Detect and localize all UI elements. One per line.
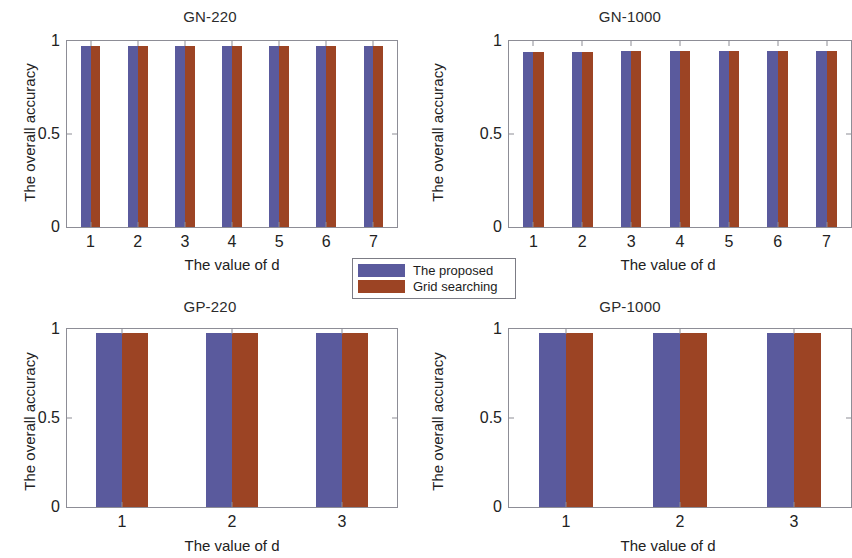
y-tick-mark: [846, 418, 851, 419]
x-tick-label: 1: [118, 513, 127, 531]
bar-group: [572, 41, 593, 227]
x-tick-mark: [826, 41, 827, 46]
bar-the-proposed-1: [96, 333, 122, 507]
panel-gn-220: GN-220 The overall accuracy 123456700.51…: [0, 0, 420, 285]
y-tick-label: 0.5: [38, 125, 60, 143]
bar-the-proposed-6: [767, 51, 777, 227]
x-tick-mark: [279, 41, 280, 46]
y-tick-label: 0: [493, 218, 502, 236]
x-axis-label: The value of d: [66, 256, 398, 273]
bar-grid-searching-4: [680, 51, 690, 227]
x-tick-mark: [777, 222, 778, 227]
bar-grid-searching-7: [827, 51, 837, 227]
x-tick-label: 5: [275, 233, 284, 251]
bar-grid-searching-1: [566, 333, 593, 507]
x-tick-label: 2: [228, 513, 237, 531]
x-tick-mark: [826, 222, 827, 227]
bar-group: [539, 329, 593, 507]
bar-group: [670, 41, 691, 227]
x-tick-label: 7: [369, 233, 378, 251]
bars-layer: [509, 41, 851, 227]
x-tick-mark: [582, 41, 583, 46]
bar-group: [316, 329, 368, 507]
bar-grid-searching-1: [533, 52, 543, 227]
x-tick-mark: [90, 41, 91, 46]
x-tick-label: 4: [228, 233, 237, 251]
bar-grid-searching-3: [631, 51, 641, 227]
x-tick-mark: [566, 502, 567, 507]
chart-legend: The proposed Grid searching: [352, 258, 516, 299]
bars-layer: [509, 329, 851, 507]
x-tick-label: 7: [822, 233, 831, 251]
bar-grid-searching-3: [794, 333, 821, 507]
bar-the-proposed-6: [316, 46, 326, 227]
y-tick-label: 1: [493, 32, 502, 50]
bar-grid-searching-7: [373, 46, 383, 227]
legend-swatch-grid-searching: [358, 280, 405, 293]
panel-title: GN-220: [0, 8, 420, 25]
x-tick-mark: [184, 222, 185, 227]
y-tick-label: 0: [51, 498, 60, 516]
x-tick-mark: [794, 329, 795, 334]
bar-grid-searching-1: [91, 46, 101, 227]
y-tick-label: 0.5: [38, 409, 60, 427]
x-tick-mark: [728, 41, 729, 46]
x-tick-mark: [680, 41, 681, 46]
y-tick-mark: [846, 134, 851, 135]
bar-group: [96, 329, 148, 507]
bar-grid-searching-6: [326, 46, 336, 227]
bar-group: [653, 329, 707, 507]
y-tick-label: 0.5: [480, 409, 502, 427]
x-tick-mark: [137, 41, 138, 46]
bar-grid-searching-2: [582, 52, 592, 227]
y-tick-mark: [67, 418, 72, 419]
x-axis-label: The value of d: [508, 537, 828, 554]
bar-the-proposed-4: [222, 46, 232, 227]
bar-group: [128, 41, 148, 227]
x-tick-label: 5: [724, 233, 733, 251]
bar-group: [269, 41, 289, 227]
x-tick-mark: [631, 222, 632, 227]
x-tick-mark: [279, 222, 280, 227]
bar-the-proposed-2: [572, 52, 582, 227]
bar-group: [175, 41, 195, 227]
bar-grid-searching-5: [279, 46, 289, 227]
panel-title: GP-220: [0, 298, 420, 315]
x-tick-mark: [373, 41, 374, 46]
bar-group: [316, 41, 336, 227]
bar-grid-searching-6: [778, 51, 788, 227]
x-tick-label: 2: [133, 233, 142, 251]
x-tick-mark: [533, 222, 534, 227]
y-tick-label: 1: [51, 320, 60, 338]
legend-label-proposed: The proposed: [413, 263, 493, 278]
bar-the-proposed-4: [670, 51, 680, 227]
bar-grid-searching-2: [232, 333, 258, 507]
bar-the-proposed-5: [719, 51, 729, 227]
y-tick-label: 0.5: [480, 125, 502, 143]
plot-area: 123456700.51: [66, 40, 398, 228]
x-tick-mark: [232, 41, 233, 46]
bars-layer: [67, 41, 397, 227]
x-tick-mark: [533, 41, 534, 46]
bar-the-proposed-3: [175, 46, 185, 227]
x-tick-mark: [794, 502, 795, 507]
bar-group: [523, 41, 544, 227]
x-tick-label: 1: [529, 233, 538, 251]
y-axis-label: The overall accuracy: [429, 38, 446, 228]
bar-the-proposed-2: [206, 333, 232, 507]
y-tick-label: 1: [493, 320, 502, 338]
x-tick-mark: [373, 222, 374, 227]
y-tick-label: 0: [493, 498, 502, 516]
bar-group: [767, 41, 788, 227]
y-tick-label: 1: [51, 32, 60, 50]
y-axis-label: The overall accuracy: [429, 327, 446, 517]
bar-the-proposed-3: [767, 333, 794, 507]
y-tick-mark: [392, 134, 397, 135]
bar-grid-searching-3: [185, 46, 195, 227]
y-tick-label: 0: [51, 218, 60, 236]
x-tick-mark: [631, 41, 632, 46]
plot-area: 12300.51: [66, 328, 398, 508]
bar-grid-searching-5: [729, 51, 739, 227]
x-tick-mark: [342, 329, 343, 334]
